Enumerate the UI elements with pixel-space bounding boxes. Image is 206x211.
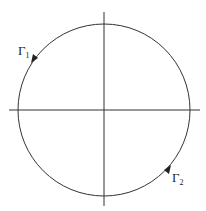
arrow-gamma1-icon [31,54,38,63]
contour-diagram: Γ1 Γ2 [0,0,206,211]
gamma2-label: Γ2 [172,170,184,187]
arrow-gamma2-icon [164,165,171,174]
gamma1-label: Γ1 [18,43,30,60]
